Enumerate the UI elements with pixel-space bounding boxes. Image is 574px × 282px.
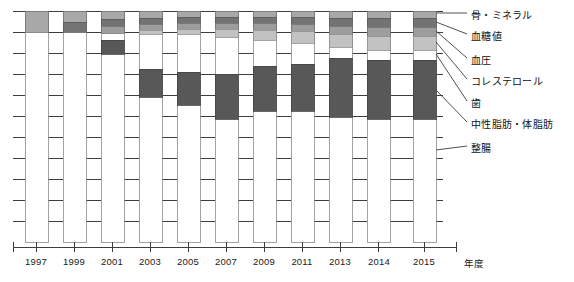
x-tick-label-2003: 2003 [130,256,170,267]
legend-label-teeth: 歯 [471,95,481,110]
legend-label-triglycerides: 中性脂肪・体脂肪 [471,116,553,131]
x-tick-label-2015: 2015 [404,256,444,267]
legend-label-blood-pressure: 血圧 [471,52,492,67]
x-tick-label-2007: 2007 [206,256,246,267]
legend-label-cholesterol: コレステロール [471,73,543,88]
bar-column-2015 [413,11,436,242]
bar-column-2011 [291,11,314,242]
x-tick-label-2013: 2013 [320,256,360,267]
x-axis [13,242,456,252]
bar-column-2001 [101,11,124,242]
bar-column-2003 [139,11,162,242]
x-tick-label-2014: 2014 [359,256,399,267]
x-tick-label-2011: 2011 [282,256,322,267]
bar-series-group [25,11,436,242]
legend-label-intestinal: 整腸 [471,140,492,155]
x-tick-label-2005: 2005 [168,256,208,267]
legend-label-blood-sugar: 血糖値 [471,28,502,43]
bar-column-2005 [177,11,200,242]
stacked-bar-chart: 1997 1999 2001 2003 2005 2007 2009 2011 … [0,0,574,282]
plot-area: 1997 1999 2001 2003 2005 2007 2009 2011 … [0,0,574,282]
x-tick-label-2009: 2009 [244,256,284,267]
legend-leader-lines [436,13,467,150]
x-tick-label-2001: 2001 [92,256,132,267]
bar-column-2007 [215,11,238,242]
x-tick-label-1999: 1999 [54,256,94,267]
bar-column-1997 [25,11,48,242]
bar-column-2009 [253,11,276,242]
bar-column-1999 [63,11,86,242]
x-tick-label-1997: 1997 [16,256,56,267]
bar-column-2013 [329,11,352,242]
legend-label-bone-mineral: 骨・ミネラル [471,7,533,22]
x-axis-title: 年度 [464,256,484,270]
bar-column-2014 [367,11,390,242]
